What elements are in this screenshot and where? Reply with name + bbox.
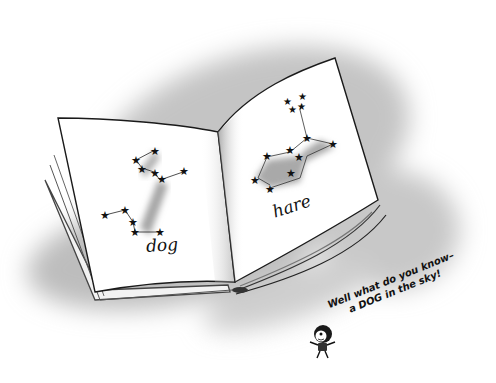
star-icon: ★ (179, 165, 189, 178)
star-icon: ★ (328, 138, 338, 151)
star-icon: ★ (294, 151, 304, 164)
star-icon: ★ (137, 163, 147, 176)
dog-label: dog (145, 234, 178, 256)
star-icon: ★ (150, 145, 160, 158)
book-spine (232, 287, 248, 293)
cartoon-child (310, 325, 335, 358)
star-icon: ★ (302, 132, 312, 145)
star-icon: ★ (157, 173, 167, 186)
star-icon: ★ (265, 183, 275, 196)
star-icon: ★ (297, 101, 306, 112)
illustration: ★ ★ ★ ★ ★ ★ ★ ★ ★ ★ ★ ★ ★ ★ ★ (0, 0, 496, 383)
star-icon: ★ (130, 226, 140, 239)
book-illustration-svg: ★ ★ ★ ★ ★ ★ ★ ★ ★ ★ ★ ★ ★ ★ ★ (0, 0, 496, 383)
star-icon: ★ (288, 104, 297, 115)
star-icon: ★ (286, 167, 296, 180)
star-icon: ★ (262, 150, 272, 163)
star-icon: ★ (250, 174, 260, 187)
star-icon: ★ (100, 209, 110, 222)
